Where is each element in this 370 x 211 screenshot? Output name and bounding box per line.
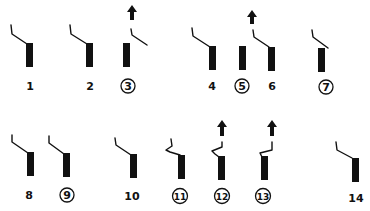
figure-13 xyxy=(260,142,272,158)
contact-lever xyxy=(192,28,210,47)
contact-bar-11 xyxy=(178,155,185,179)
up-arrow-icon-6 xyxy=(247,10,257,24)
figure-3 xyxy=(131,29,147,45)
contact-lever xyxy=(70,25,87,44)
figure-label-12: 12 xyxy=(216,192,229,202)
figure-label-1: 1 xyxy=(26,80,34,93)
contact-lever xyxy=(11,25,27,44)
contact-lever-zigzag xyxy=(212,142,222,157)
figure-12 xyxy=(212,142,222,157)
contact-lever xyxy=(253,30,269,47)
contact-lever xyxy=(312,30,328,48)
figure-14 xyxy=(336,142,352,158)
figure-label-14: 14 xyxy=(348,192,364,205)
contact-bar-14 xyxy=(352,158,359,182)
figure-label-3: 3 xyxy=(124,80,132,93)
contact-lever xyxy=(49,136,64,154)
figure-7 xyxy=(312,30,328,48)
switch-diagram: 1 2 3 4 5 6 7 8 9 10 11 12 13 14 xyxy=(0,0,370,211)
figure-6 xyxy=(253,30,269,47)
figure-label-10: 10 xyxy=(124,190,140,203)
figure-1 xyxy=(11,25,27,44)
figure-10 xyxy=(115,138,131,155)
figure-label-2: 2 xyxy=(86,80,94,93)
figure-9 xyxy=(49,136,64,154)
up-arrow-icon-13 xyxy=(267,120,277,136)
figure-label-5: 5 xyxy=(238,80,246,93)
contact-bar-10 xyxy=(130,154,137,178)
contact-bar-6 xyxy=(268,47,275,71)
contact-bar-13 xyxy=(261,156,268,180)
figure-2 xyxy=(70,25,87,44)
contact-bar-9 xyxy=(63,153,70,177)
contact-bar-1 xyxy=(26,43,33,67)
contact-bar-7 xyxy=(318,48,325,72)
contact-lever xyxy=(131,29,147,45)
figure-label-6: 6 xyxy=(268,80,276,93)
up-arrow-icon-3 xyxy=(127,5,137,20)
figure-label-13: 13 xyxy=(257,192,270,202)
up-arrow-icon-12 xyxy=(217,120,227,136)
contact-bar-12 xyxy=(218,156,225,180)
contact-lever xyxy=(115,138,131,155)
contact-lever-zigzag xyxy=(166,139,180,155)
contact-bar-5 xyxy=(239,46,246,70)
figure-11 xyxy=(166,139,180,155)
figure-4 xyxy=(192,28,210,47)
figure-label-11: 11 xyxy=(174,192,187,202)
contact-lever xyxy=(12,135,28,153)
contact-lever xyxy=(336,142,352,158)
figure-label-9: 9 xyxy=(63,189,71,202)
contact-bar-8 xyxy=(27,152,34,176)
contact-bar-2 xyxy=(86,43,93,67)
contact-bar-3 xyxy=(123,43,130,67)
figure-label-7: 7 xyxy=(322,81,330,94)
contact-lever-zigzag xyxy=(260,142,272,158)
figure-label-4: 4 xyxy=(208,80,216,93)
figure-label-8: 8 xyxy=(25,189,33,202)
figure-8 xyxy=(12,135,28,153)
contact-bar-4 xyxy=(209,46,216,70)
